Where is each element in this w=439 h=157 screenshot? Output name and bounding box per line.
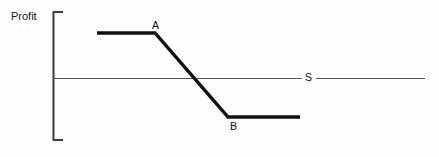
point-label-a: A — [152, 20, 159, 31]
point-label-b: B — [230, 121, 237, 132]
y-axis-label: Profit — [11, 11, 37, 22]
y-axis-bracket — [54, 12, 64, 140]
diagram-canvas — [0, 0, 439, 157]
profit-curve-line — [97, 33, 300, 117]
profit-diagram: Profit A B S — [0, 0, 439, 157]
line-label-s: S — [305, 72, 312, 83]
